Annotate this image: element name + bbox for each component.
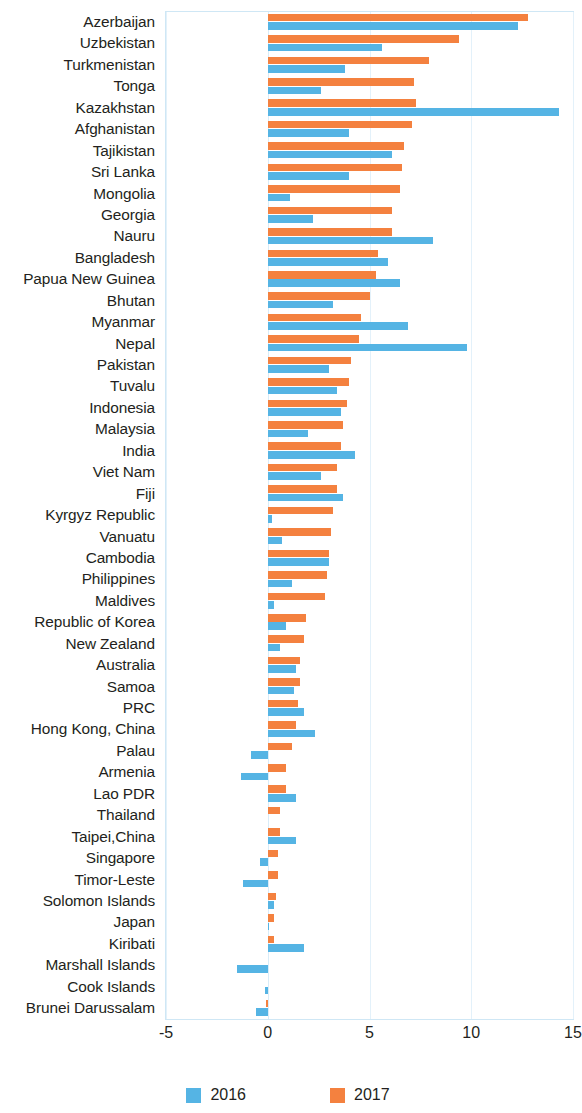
bar-2017 [268,893,276,901]
bar-2016 [268,580,292,588]
category-label: Tuvalu [0,375,160,396]
bar-group [166,141,573,162]
bar-group [166,248,573,269]
bar-2016 [268,472,321,480]
category-label: Azerbaijan [0,11,160,32]
bar-2017 [268,185,400,193]
legend-swatch-2017 [330,1088,345,1103]
bar-group [166,162,573,183]
bar-2016 [268,901,274,909]
bar-2017 [266,1000,268,1008]
category-label: Republic of Korea [0,611,160,632]
bar-group [166,848,573,869]
category-label: Pakistan [0,354,160,375]
bar-group [166,205,573,226]
category-label: Vanuatu [0,526,160,547]
category-label: Thailand [0,804,160,825]
category-label: Timor-Leste [0,869,160,890]
category-axis-labels: AzerbaijanUzbekistanTurkmenistanTongaKaz… [0,11,160,1019]
bar-2017 [268,507,333,515]
bar-group [166,955,573,976]
bar-2017 [268,828,280,836]
bar-group [166,677,573,698]
category-label: Kyrgyz Republic [0,504,160,525]
category-label: Cambodia [0,547,160,568]
bar-2016 [268,730,315,738]
bar-2016 [265,987,268,995]
bar-2017 [268,743,292,751]
bar-group [166,655,573,676]
bar-2016 [243,880,267,888]
bar-group [166,184,573,205]
bar-2016 [268,430,309,438]
bar-2016 [268,708,305,716]
bar-group [166,784,573,805]
x-tick-label: 10 [462,1024,480,1042]
category-label: Hong Kong, China [0,718,160,739]
bar-2017 [268,571,327,579]
bar-2016 [268,558,329,566]
bar-2016 [268,172,349,180]
category-label: Australia [0,654,160,675]
bar-group [166,462,573,483]
bar-2016 [268,408,341,416]
bar-2017 [268,421,343,429]
bar-group [166,398,573,419]
bar-2016 [268,151,392,159]
category-label: Marshall Islands [0,954,160,975]
x-tick-label: 5 [365,1024,374,1042]
bar-group [166,741,573,762]
category-label: Taipei,China [0,826,160,847]
bar-group [166,870,573,891]
bar-2016 [268,794,296,802]
bar-2017 [268,35,459,43]
legend-item-2017[interactable]: 2017 [330,1086,390,1104]
bar-2016 [268,365,329,373]
bar-2016 [268,44,382,52]
category-label: India [0,440,160,461]
bar-2016 [268,944,305,952]
bar-2017 [268,357,351,365]
category-label: Georgia [0,204,160,225]
category-label: Viet Nam [0,461,160,482]
chart-legend: 20162017 [0,1086,576,1104]
category-label: Cook Islands [0,976,160,997]
bar-group [166,505,573,526]
legend-label: 2017 [354,1086,390,1104]
category-label: PRC [0,697,160,718]
category-label: Afghanistan [0,118,160,139]
bar-group [166,98,573,119]
bar-2016 [268,451,356,459]
bar-2016 [268,644,280,652]
bar-2016 [268,837,296,845]
bar-2017 [268,142,404,150]
bar-2016 [268,301,333,309]
bar-2017 [268,335,360,343]
bar-2016 [268,665,296,673]
bar-2017 [268,614,307,622]
bar-2016 [268,601,274,609]
bar-2017 [268,228,392,236]
category-label: Brunei Darussalam [0,997,160,1018]
category-label: Fiji [0,483,160,504]
bar-2016 [268,279,400,287]
bar-2017 [268,442,341,450]
bar-2016 [268,194,290,202]
bar-group [166,527,573,548]
category-label: Nepal [0,333,160,354]
bar-2016 [268,622,286,630]
bar-group [166,998,573,1019]
bar-group [166,376,573,397]
category-label: Malaysia [0,418,160,439]
bar-group [166,12,573,33]
bar-group [166,119,573,140]
bar-2016 [268,322,408,330]
category-label: Nauru [0,225,160,246]
category-label: Tajikistan [0,140,160,161]
legend-item-2016[interactable]: 2016 [186,1086,246,1104]
category-label: Philippines [0,568,160,589]
x-tick-label: 0 [263,1024,272,1042]
category-label: Mongolia [0,183,160,204]
bar-group [166,55,573,76]
bar-group [166,934,573,955]
